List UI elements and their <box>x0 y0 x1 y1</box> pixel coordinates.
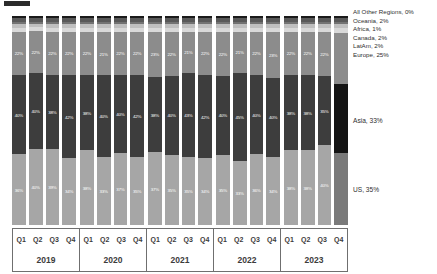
bar-segment-value-label: 42% <box>62 114 76 119</box>
bar-q3-2023[interactable]: 22%35%40% <box>318 16 332 225</box>
bar-segment-asia: 42% <box>130 75 144 157</box>
bar-segment-us: 37% <box>148 152 162 225</box>
bar-segment-us: 39% <box>46 149 60 225</box>
bar-segment-value-label: 45% <box>233 114 247 119</box>
bar-segment-value-label: 23% <box>266 52 280 57</box>
bar-segment-asia: 40% <box>12 75 26 154</box>
bar-segment-asia: 45% <box>233 73 247 161</box>
bar-segment-value-label: 40% <box>29 184 43 189</box>
axis-tick-q3: Q3 <box>180 236 197 243</box>
bar-segment-value-label: 38% <box>80 110 94 115</box>
bar-segment-asia: 38% <box>284 75 298 150</box>
bar-q2-2023[interactable]: 22%38%38% <box>301 16 315 225</box>
bar-segment-value-label: 40% <box>12 112 26 117</box>
bar-segment-value-label: 40% <box>114 111 128 116</box>
bar-q2-2021[interactable]: 22%40%35% <box>165 16 179 225</box>
bar-segment-value-label: 22% <box>114 51 128 56</box>
bar-segment-us: 35% <box>182 157 196 225</box>
bar-q3-2022[interactable]: 22%40%36% <box>250 16 264 225</box>
bar-segment-value-label: 35% <box>318 108 332 113</box>
bar-segment-value-label: 21% <box>233 50 247 55</box>
axis-tick-q4: Q4 <box>130 236 147 243</box>
bar-q1-2022[interactable]: 22%40%35% <box>216 16 230 225</box>
bar-segment-us: 34% <box>198 158 212 225</box>
bar-segment-value-label: 23% <box>148 52 162 57</box>
bar-segment-europe: 22% <box>301 32 315 75</box>
bar-segment-value-label: 22% <box>46 51 60 56</box>
axis-quarter-row: Q1Q2Q3Q4 <box>13 229 79 249</box>
axis-quarter-row: Q1Q2Q3Q4 <box>147 229 213 249</box>
bar-year-group: 22%40%35%21%45%33%22%40%36%23%40%34% <box>216 16 284 225</box>
bar-segment-us: 35% <box>165 155 179 225</box>
x-axis: Q1Q2Q3Q42019Q1Q2Q3Q42020Q1Q2Q3Q42021Q1Q2… <box>12 229 348 271</box>
bar-segment-value-label: 22% <box>80 51 94 56</box>
bar-segment-europe: 22% <box>62 32 76 75</box>
bar-segment-value-label: 38% <box>148 112 162 117</box>
bar-segment-value-label: 40% <box>97 114 111 119</box>
bar-segment-us: 36% <box>250 154 264 225</box>
bar-q1-2023[interactable]: 22%38%38% <box>284 16 298 225</box>
bar-segment-value-label: 37% <box>114 186 128 191</box>
axis-year-label: 2022 <box>214 249 280 271</box>
bar-q1-2019[interactable]: 22%40%36% <box>12 16 26 225</box>
bar-segment-us: 35% <box>130 157 144 225</box>
axis-year-label: 2023 <box>281 249 347 271</box>
bar-segment-asia: 40% <box>266 78 280 158</box>
axis-tick-q4: Q4 <box>331 236 348 243</box>
bar-segment-asia: 38% <box>148 77 162 152</box>
bar-segment-europe <box>334 33 348 85</box>
legend-entry: All Other Regions, 0% <box>353 8 437 17</box>
axis-tick-q4: Q4 <box>264 236 281 243</box>
axis-year-label: 2021 <box>147 249 213 271</box>
bar-q4-2021[interactable]: 22%42%34% <box>198 16 212 225</box>
bar-q4-2020[interactable]: 22%42%35% <box>130 16 144 225</box>
bar-segment-us: 34% <box>62 158 76 225</box>
bar-segment-asia: 40% <box>250 75 264 154</box>
bar-segment-asia: 42% <box>62 75 76 158</box>
bar-q4-2019[interactable]: 22%42%34% <box>62 16 76 225</box>
legend-entry: Africa, 1% <box>353 25 437 34</box>
bar-q2-2019[interactable]: 22%40%40% <box>29 16 43 225</box>
bar-segment-europe: 22% <box>250 32 264 75</box>
bar-segment-europe: 22% <box>29 31 43 73</box>
bar-q2-2020[interactable]: 21%40%33% <box>97 16 111 225</box>
bar-segment-asia: 38% <box>301 75 315 150</box>
bar-segment-us <box>334 153 348 225</box>
bar-q1-2021[interactable]: 23%38%37% <box>148 16 162 225</box>
bar-segment-value-label: 42% <box>198 114 212 119</box>
bar-segment-value-label: 22% <box>62 51 76 56</box>
bar-q3-2021[interactable]: 21%43%35% <box>182 16 196 225</box>
axis-tick-q1: Q1 <box>281 236 298 243</box>
bar-segment-value-label: 22% <box>12 51 26 56</box>
axis-quarter-row: Q1Q2Q3Q4 <box>80 229 146 249</box>
bar-q3-2020[interactable]: 22%40%37% <box>114 16 128 225</box>
axis-tick-q3: Q3 <box>247 236 264 243</box>
bar-segment-value-label: 22% <box>29 50 43 55</box>
chart-page: 22%40%36%22%40%40%22%38%39%22%42%34%22%3… <box>0 0 437 274</box>
bar-q1-2020[interactable]: 22%38%38% <box>80 16 94 225</box>
bar-segment-value-label: 38% <box>80 185 94 190</box>
axis-tick-q2: Q2 <box>298 236 315 243</box>
bar-segment-europe: 23% <box>148 32 162 77</box>
axis-year-block: Q1Q2Q3Q42021 <box>147 229 214 271</box>
bar-q4-2023[interactable] <box>334 16 348 225</box>
axis-tick-q3: Q3 <box>314 236 331 243</box>
bar-segment-europe: 22% <box>284 32 298 75</box>
bar-q3-2019[interactable]: 22%38%39% <box>46 16 60 225</box>
axis-year-block: Q1Q2Q3Q42019 <box>13 229 80 271</box>
bar-segment-europe: 22% <box>318 32 332 76</box>
bar-segment-us: 37% <box>114 153 128 225</box>
bar-segment-value-label: 36% <box>12 187 26 192</box>
axis-tick-q1: Q1 <box>147 236 164 243</box>
bar-year-group: 22%40%36%22%40%40%22%38%39%22%42%34% <box>12 16 80 225</box>
bar-q4-2022[interactable]: 23%40%34% <box>266 16 280 225</box>
bar-year-group: 23%38%37%22%40%35%21%43%35%22%42%34% <box>148 16 216 225</box>
bar-segment-us: 34% <box>266 157 280 225</box>
bar-segment-asia: 40% <box>216 76 230 156</box>
bar-segment-us: 35% <box>216 155 230 225</box>
bar-segment-us: 40% <box>318 145 332 225</box>
bar-segment-value-label: 21% <box>182 50 196 55</box>
bar-segment-value-label: 34% <box>266 189 280 194</box>
bar-q2-2022[interactable]: 21%45%33% <box>233 16 247 225</box>
bar-segment-value-label: 38% <box>301 185 315 190</box>
